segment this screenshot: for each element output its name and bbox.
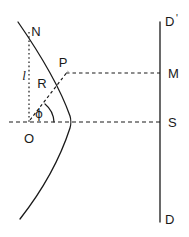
label-O: O <box>24 131 34 146</box>
parabolic-mirror-curve <box>18 22 71 219</box>
label-radius-R: R <box>37 76 46 91</box>
label-D-prime: D <box>165 14 174 29</box>
geometry-figure: N P O M S D ' D l R ϕ <box>0 0 189 237</box>
angle-arc <box>45 104 54 122</box>
label-prime-mark: ' <box>176 13 178 24</box>
label-P: P <box>59 55 68 70</box>
label-D: D <box>165 212 174 227</box>
label-M: M <box>168 66 179 81</box>
label-length-l: l <box>22 68 26 83</box>
diagram-canvas: N P O M S D ' D l R ϕ <box>0 0 189 237</box>
label-N: N <box>31 24 40 39</box>
label-angle-phi: ϕ <box>35 107 43 121</box>
label-S: S <box>168 115 177 130</box>
